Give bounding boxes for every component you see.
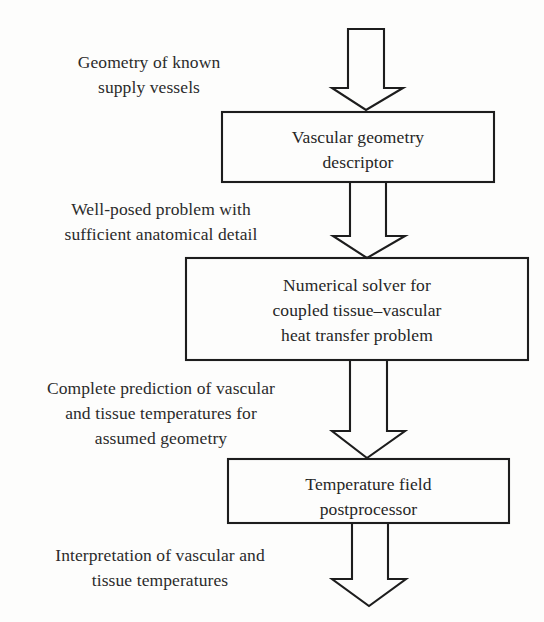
box-label-numerical-solver: Numerical solver for coupled tissue–vasc… xyxy=(186,273,528,348)
prediction-annotation: Complete prediction of vascular and tiss… xyxy=(12,376,310,451)
box-label-temperature-field-postprocessor: Temperature field postprocessor xyxy=(228,472,509,522)
flowchart-page: Geometry of known supply vessels Well-po… xyxy=(0,0,544,622)
label-layer: Geometry of known supply vessels Well-po… xyxy=(0,0,544,622)
well-posed-annotation: Well-posed problem with sufficient anato… xyxy=(28,197,294,247)
box-label-vascular-geometry-descriptor: Vascular geometry descriptor xyxy=(222,125,494,175)
input-annotation: Geometry of known supply vessels xyxy=(18,50,280,100)
interpretation-annotation: Interpretation of vascular and tissue te… xyxy=(14,543,306,593)
